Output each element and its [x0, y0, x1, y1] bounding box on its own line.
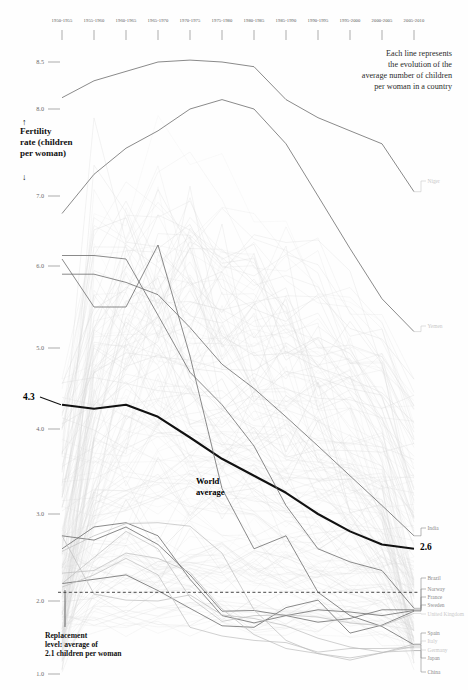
- x-tick-label: 1985-1990: [276, 18, 297, 23]
- series-label-brazil: Brazil: [428, 575, 442, 581]
- series-label-norway: Norway: [428, 586, 446, 592]
- annotation-line-3: per woman in a country: [374, 82, 453, 91]
- x-tick-label: 1950-1955: [52, 18, 73, 23]
- series-label-japan: Japan: [428, 655, 441, 661]
- fertility-rate-chart: 1950-19551955-19601960-19651965-19701970…: [0, 0, 468, 690]
- y-axis-arrow-up-icon: ↑: [22, 117, 27, 127]
- x-tick-label: 1995-2000: [340, 18, 361, 23]
- world-start-value: 4.3: [23, 392, 35, 402]
- y-axis-arrow-down-icon: ↓: [22, 172, 27, 182]
- y-tick-label: 8.0: [36, 105, 44, 112]
- x-tick-label: 1980-1985: [244, 18, 265, 23]
- x-tick-label: 2000-2005: [372, 18, 393, 23]
- annotation-line-1: the evolution of the: [388, 60, 452, 69]
- annotation-line-2: average number of children: [362, 71, 452, 80]
- replacement-line-2: 2.1 children per woman: [45, 649, 122, 658]
- series-label-italy: Italy: [428, 638, 438, 644]
- x-tick-label: 1990-1995: [308, 18, 329, 23]
- y-tick-label: 6.0: [36, 262, 44, 269]
- replacement-line-0: Replacement: [45, 631, 88, 640]
- x-tick-label: 1970-1975: [180, 18, 201, 23]
- x-tick-label: 1960-1965: [116, 18, 137, 23]
- y-tick-label: 1.0: [36, 670, 44, 677]
- series-label-france: France: [428, 594, 443, 600]
- x-tick-label: 1975-1980: [212, 18, 233, 23]
- y-axis-title-line-0: Fertility: [20, 126, 52, 136]
- series-label-germany: Germany: [428, 647, 448, 653]
- y-tick-label: 8.5: [36, 58, 44, 65]
- replacement-line-1: level: average of: [45, 640, 98, 649]
- y-tick-label: 3.0: [36, 510, 44, 517]
- series-label-niger: Niger: [428, 178, 440, 184]
- x-tick-label: 2005-2010: [404, 18, 425, 23]
- world-end-value: 2.6: [420, 542, 432, 552]
- series-label-china: China: [428, 669, 441, 675]
- x-tick-label: 1955-1960: [84, 18, 105, 23]
- y-tick-label: 5.0: [36, 344, 44, 351]
- y-tick-label: 2.0: [36, 597, 44, 604]
- chart-page: 1950-19551955-19601960-19651965-19701970…: [0, 0, 468, 690]
- series-label-spain: Spain: [428, 630, 441, 636]
- series-label-india: India: [428, 525, 440, 531]
- y-tick-label: 7.0: [36, 192, 44, 199]
- y-axis-title-line-1: rate (children: [20, 137, 73, 147]
- series-label-united-kingdom: United Kingdom: [428, 611, 465, 617]
- y-tick-label: 4.0: [36, 425, 44, 432]
- series-label-yemen: Yemen: [428, 323, 443, 329]
- world-average-label-line-0: World: [196, 476, 220, 486]
- x-tick-label: 1965-1970: [148, 18, 169, 23]
- y-axis-title-line-2: per woman): [20, 148, 66, 158]
- annotation-line-0: Each line represents: [386, 49, 452, 58]
- world-average-label-line-1: average: [196, 487, 225, 497]
- series-label-sweden: Sweden: [428, 602, 445, 608]
